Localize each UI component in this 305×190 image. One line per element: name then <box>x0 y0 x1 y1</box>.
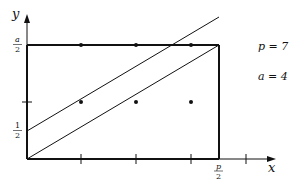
x-axis-label: x <box>268 160 276 175</box>
tick-label-1-over-2: 1 2 <box>13 121 22 140</box>
svg-text:p: p <box>216 162 221 171</box>
y-axis-label: y <box>11 6 20 21</box>
upper-diagonal-line <box>27 17 219 131</box>
tick-label-p-over-2: p 2 <box>214 162 223 181</box>
svg-text:a: a <box>15 35 20 44</box>
tick-label-a-over-2: a 2 <box>13 35 22 54</box>
y-axis-arrow-icon <box>24 14 30 23</box>
svg-text:2: 2 <box>15 131 20 140</box>
svg-text:2: 2 <box>15 45 20 54</box>
parameter-p: p = 7 <box>258 40 288 53</box>
lattice-diagram: y x a 2 1 2 p 2 p = 7 a = 4 <box>0 0 305 190</box>
svg-text:1: 1 <box>15 121 20 130</box>
svg-text:2: 2 <box>216 172 221 181</box>
parameter-a: a = 4 <box>258 70 288 83</box>
